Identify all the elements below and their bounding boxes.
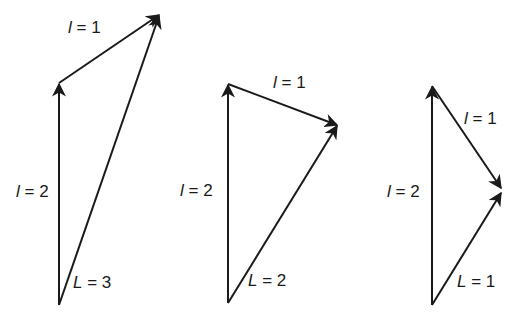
label-l1-d3: l = 1 [464,110,497,127]
label-L-d3: L = 1 [457,273,495,290]
label-l2-d2: l = 2 [180,182,213,199]
label-l2-d1: l = 2 [16,183,49,200]
label-L-d2: L = 2 [248,272,286,289]
vector-l1-d3 [432,86,501,188]
label-L-d1: L = 3 [73,274,111,291]
label-l2-d3: l = 2 [387,183,420,200]
label-l1-d1: l = 1 [68,19,101,36]
vector-L-d1 [59,16,159,305]
label-l1-d2: l = 1 [273,74,306,91]
